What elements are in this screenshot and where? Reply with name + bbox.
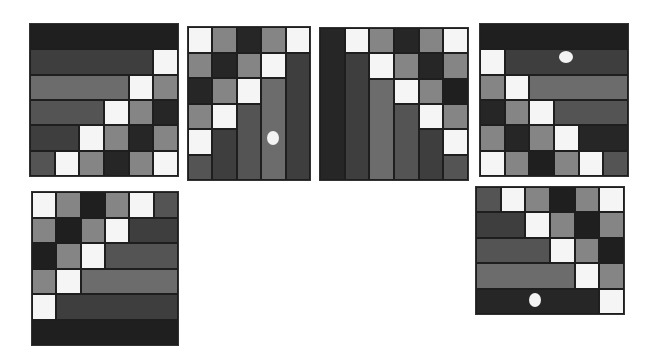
grid-cell [79, 151, 104, 176]
grid-cell [579, 125, 628, 150]
grid-cell [56, 218, 80, 244]
grid-cell [188, 155, 212, 181]
grid-cell [575, 263, 600, 288]
grid-cell [30, 49, 153, 74]
grid-cell [153, 49, 178, 74]
grid-cell [129, 125, 154, 150]
grid-cell [212, 27, 236, 53]
grid-cell [394, 53, 419, 78]
grid-cell [237, 104, 261, 181]
grid-cell [32, 320, 178, 346]
grid-cell [575, 187, 600, 212]
grid-cell [129, 151, 154, 176]
panel-bottom-1 [32, 192, 178, 345]
grid-cell [105, 218, 129, 244]
grid-cell [153, 151, 178, 176]
grid-cell [529, 75, 628, 100]
grid-cell [480, 75, 505, 100]
grid-cell [81, 243, 105, 269]
grid-cell [369, 28, 394, 53]
grid-cell [129, 218, 178, 244]
grid-cell [394, 28, 419, 53]
grid-cell [525, 187, 550, 212]
grid-cell [79, 125, 104, 150]
grid-cell [188, 104, 212, 130]
grid-cell [261, 78, 285, 180]
grid-cell [476, 238, 550, 263]
grid-cell [505, 125, 530, 150]
grid-cell [32, 243, 56, 269]
grid-cell [32, 294, 56, 320]
grid-cell [476, 263, 575, 288]
grid-cell [56, 294, 178, 320]
grid-cell [369, 79, 394, 180]
grid-cell [480, 151, 505, 176]
grid-cell [599, 289, 624, 314]
grid-cell [599, 238, 624, 263]
grid-cell [505, 151, 530, 176]
grid-cell [575, 238, 600, 263]
grid-cell [550, 212, 575, 237]
grid-cell [30, 24, 178, 49]
grid-cell [286, 27, 310, 53]
grid-cell [188, 129, 212, 155]
grid-cell [529, 100, 554, 125]
grid-cell [154, 192, 178, 218]
grid-cell [505, 100, 530, 125]
grid-cell [30, 100, 104, 125]
grid-cell [30, 125, 79, 150]
grid-cell [153, 100, 178, 125]
white-dot-marker [529, 293, 541, 307]
grid-cell [105, 243, 178, 269]
grid-cell [529, 125, 554, 150]
grid-cell [212, 104, 236, 130]
grid-cell [575, 212, 600, 237]
panel-top-4 [480, 24, 628, 176]
grid-cell [480, 125, 505, 150]
grid-cell [81, 192, 105, 218]
grid-cell [525, 212, 550, 237]
grid-cell [212, 129, 236, 180]
grid-cell [32, 192, 56, 218]
grid-cell [476, 187, 501, 212]
grid-cell [603, 151, 628, 176]
grid-cell [443, 129, 468, 154]
grid-cell [443, 53, 468, 78]
grid-cell [261, 53, 285, 79]
grid-cell [443, 104, 468, 129]
grid-cell [104, 100, 129, 125]
grid-cell [443, 79, 468, 104]
grid-cell [56, 192, 80, 218]
grid-cell [261, 27, 285, 53]
grid-cell [237, 78, 261, 104]
grid-cell [32, 269, 56, 295]
grid-cell [286, 53, 310, 181]
grid-cell [30, 151, 55, 176]
grid-cell [419, 129, 444, 180]
grid-cell [554, 125, 579, 150]
grid-cell [419, 53, 444, 78]
panel-bottom-2 [476, 187, 624, 314]
grid-cell [599, 263, 624, 288]
grid-cell [188, 27, 212, 53]
grid-cell [345, 53, 370, 180]
grid-cell [480, 49, 505, 74]
grid-cell [599, 212, 624, 237]
grid-cell [105, 192, 129, 218]
white-dot-marker [559, 51, 573, 63]
grid-cell [153, 125, 178, 150]
grid-cell [476, 212, 525, 237]
grid-cell [550, 187, 575, 212]
grid-cell [394, 79, 419, 104]
grid-cell [554, 151, 579, 176]
grid-cell [104, 151, 129, 176]
grid-cell [32, 218, 56, 244]
grid-cell [55, 151, 80, 176]
grid-cell [237, 53, 261, 79]
grid-cell [599, 187, 624, 212]
grid-cell [188, 53, 212, 79]
panel-top-2 [188, 27, 310, 180]
grid-cell [129, 100, 154, 125]
grid-cell [56, 269, 80, 295]
grid-cell [237, 27, 261, 53]
